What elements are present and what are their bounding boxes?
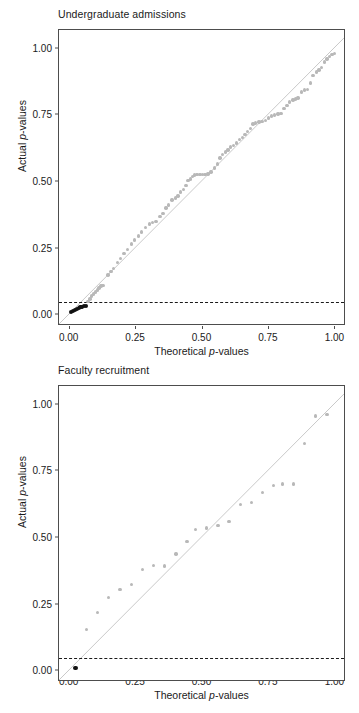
data-point <box>282 107 285 110</box>
qq-plot-figure: Undergraduate admissions Actual p-values… <box>0 0 359 713</box>
data-point <box>320 66 323 69</box>
data-point <box>101 284 104 287</box>
y-tick-label: 0.75 <box>8 109 52 120</box>
data-point <box>311 74 314 77</box>
data-point <box>140 230 143 233</box>
data-point <box>126 248 129 251</box>
plot-area <box>58 385 345 681</box>
data-point <box>235 141 238 144</box>
data-point <box>96 611 99 614</box>
chart-panel-undergraduate-admissions: Undergraduate admissions Actual p-values… <box>0 0 359 356</box>
data-point <box>213 166 216 169</box>
x-tick-label: 0.00 <box>49 332 89 343</box>
y-tick-label: 0.25 <box>8 242 52 253</box>
data-point <box>243 133 246 136</box>
data-point <box>306 88 309 91</box>
data-point <box>246 130 249 133</box>
chart-panel-faculty-recruitment: Faculty recruitment Actual p-values 1.00… <box>0 356 359 713</box>
data-point <box>296 96 299 99</box>
y-tick-label: 0.50 <box>8 532 52 543</box>
data-point <box>107 596 110 599</box>
data-point <box>84 304 88 308</box>
y-tick-label: 0.50 <box>8 176 52 187</box>
data-point <box>122 252 125 255</box>
data-point <box>279 112 282 115</box>
data-point <box>216 524 219 527</box>
data-point <box>116 261 119 264</box>
x-tick-mark <box>202 326 203 329</box>
data-point <box>130 583 133 586</box>
plot-inner <box>59 30 344 324</box>
data-point <box>174 552 177 555</box>
data-point <box>325 413 328 416</box>
data-point <box>158 215 161 218</box>
data-point <box>226 148 229 151</box>
data-point <box>164 206 167 209</box>
data-point <box>218 156 221 159</box>
significance-threshold-line <box>59 302 344 303</box>
data-point <box>152 564 155 567</box>
data-point <box>205 526 208 529</box>
data-point <box>281 482 284 485</box>
x-tick-label: 0.50 <box>182 332 222 343</box>
data-point <box>182 188 185 191</box>
y-axis-ticks: 1.000.750.500.250.00 <box>0 385 52 681</box>
data-point <box>216 162 219 165</box>
y-tick-label: 1.00 <box>8 398 52 409</box>
x-axis-label: Theoretical p-values <box>58 689 345 701</box>
y-tick-label: 1.00 <box>8 42 52 53</box>
data-point <box>209 170 212 173</box>
plot-area <box>58 29 345 325</box>
data-point <box>130 242 133 245</box>
y-tick-label: 0.75 <box>8 465 52 476</box>
x-tick-mark <box>268 326 269 329</box>
y-tick-label: 0.00 <box>8 309 52 320</box>
significance-threshold-line <box>59 658 344 659</box>
data-point <box>261 491 264 494</box>
data-point <box>133 238 136 241</box>
data-point <box>333 52 336 55</box>
data-point <box>314 414 317 417</box>
data-point <box>85 628 88 631</box>
data-point <box>161 212 164 215</box>
chart-title: Faculty recruitment <box>58 364 149 376</box>
data-point <box>176 194 179 197</box>
data-point <box>154 220 157 223</box>
x-tick-mark <box>135 326 136 329</box>
x-tick-mark <box>69 326 70 329</box>
data-point <box>106 273 109 276</box>
data-point <box>137 234 140 237</box>
y-tick-label: 0.00 <box>8 665 52 676</box>
data-point <box>163 564 166 567</box>
data-point <box>194 528 197 531</box>
data-point <box>167 203 170 206</box>
plot-inner <box>59 386 344 680</box>
data-point <box>249 127 252 130</box>
y-tick-label: 0.25 <box>8 598 52 609</box>
data-point <box>227 520 230 523</box>
y-axis-ticks: 1.000.750.500.250.00 <box>0 29 52 325</box>
data-point <box>119 257 122 260</box>
x-tick-label: 0.25 <box>115 332 155 343</box>
data-point <box>285 104 288 107</box>
data-point <box>109 270 112 273</box>
chart-title: Undergraduate admissions <box>58 8 186 20</box>
data-point <box>303 442 306 445</box>
data-point <box>239 503 242 506</box>
data-point <box>323 60 326 63</box>
data-point <box>141 568 144 571</box>
x-axis-ticks: 0.000.250.500.751.00 <box>58 326 345 346</box>
data-point <box>118 588 121 591</box>
data-point <box>144 226 147 229</box>
x-tick-label: 1.00 <box>314 332 354 343</box>
data-point <box>112 267 115 270</box>
data-point <box>272 484 275 487</box>
identity-reference-line <box>59 30 344 324</box>
data-point <box>185 540 188 543</box>
identity-reference-line <box>59 386 344 680</box>
x-tick-mark <box>334 326 335 329</box>
data-point <box>309 81 312 84</box>
data-point <box>184 184 187 187</box>
data-point <box>250 501 253 504</box>
data-point <box>73 666 77 670</box>
